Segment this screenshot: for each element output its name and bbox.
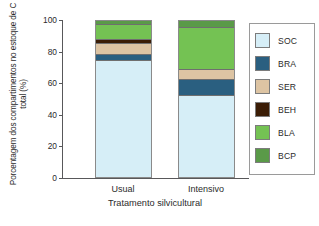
legend-swatch-bla <box>255 125 270 140</box>
y-axis-tick <box>59 146 63 147</box>
bar-segment-soc <box>179 95 234 177</box>
legend-item-beh[interactable]: BEH <box>255 98 314 121</box>
legend-item-bla[interactable]: BLA <box>255 121 314 144</box>
legend-item-ser[interactable]: SER <box>255 75 314 98</box>
plot-area: 020406080100UsualIntensivo <box>62 20 249 179</box>
bar-segment-soc <box>96 60 151 177</box>
legend-swatch-bcp <box>255 148 270 163</box>
bar-segment-bra <box>96 54 151 61</box>
legend-item-bcp[interactable]: BCP <box>255 144 314 167</box>
y-axis-tick <box>59 178 63 179</box>
legend-label: BRA <box>278 59 296 69</box>
bar-segment-ser <box>179 69 234 79</box>
y-axis-tick-label: 100 <box>43 16 57 24</box>
x-axis-tick-label: Usual <box>111 184 134 194</box>
legend-swatch-ser <box>255 79 270 94</box>
x-axis-title: Tratamento silvicultural <box>62 198 248 208</box>
legend-swatch-soc <box>255 33 270 48</box>
legend-item-soc[interactable]: SOC <box>255 29 314 52</box>
legend-label: BEH <box>278 105 296 115</box>
y-axis-tick <box>59 20 63 21</box>
y-axis-tick <box>59 52 63 53</box>
legend: SOCBRASERBEHBLABCP <box>249 23 315 175</box>
bar-segment-bla <box>96 24 151 39</box>
legend-label: BLA <box>278 128 295 138</box>
y-axis-tick-label: 40 <box>48 111 57 119</box>
legend-swatch-beh <box>255 102 270 117</box>
y-axis-tick-label: 60 <box>48 79 57 87</box>
chart-figure: Porcentagem dos compartimentos no estoqu… <box>0 0 319 226</box>
y-axis-tick <box>59 83 63 84</box>
x-axis-tick-label: Intensivo <box>188 184 224 194</box>
y-axis-tick-label: 20 <box>48 142 57 150</box>
bar-segment-bra <box>179 79 234 95</box>
bar-segment-ser <box>96 43 151 54</box>
y-axis-tick <box>59 115 63 116</box>
legend-label: SER <box>278 82 296 92</box>
legend-swatch-bra <box>255 56 270 71</box>
legend-item-bra[interactable]: BRA <box>255 52 314 75</box>
y-axis-tick-label: 80 <box>48 47 57 55</box>
y-axis-title: Porcentagem dos compartimentos no estoqu… <box>4 0 34 188</box>
legend-label: SOC <box>278 36 297 46</box>
stacked-bar-intensivo <box>178 20 235 178</box>
legend-label: BCP <box>278 151 296 161</box>
y-axis-tick-label: 0 <box>52 174 57 182</box>
stacked-bar-usual <box>95 20 152 178</box>
bar-segment-bla <box>179 27 234 69</box>
